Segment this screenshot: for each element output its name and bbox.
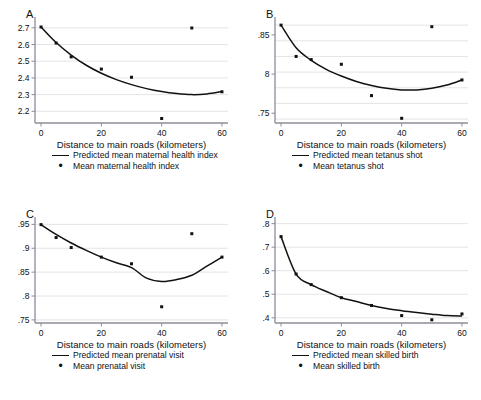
svg-text:.5: .5 [262,289,269,299]
dot-swatch-icon: • [52,362,69,371]
line-swatch-icon [52,155,69,156]
chart-panel-c: C .75.8.85.9.950204060Distance to main r… [0,200,240,400]
svg-text:.8: .8 [262,219,269,229]
legend-label-points-a: Mean maternal health index [73,161,179,171]
svg-text:2.7: 2.7 [18,23,30,33]
svg-text:.95: .95 [18,219,30,229]
legend-item-fit-b: Predicted mean tetanus shot [240,150,480,160]
dot-swatch-icon: • [292,362,309,371]
svg-text:60: 60 [217,128,227,138]
svg-text:40: 40 [157,328,167,338]
svg-text:.75: .75 [258,108,270,118]
svg-text:.7: .7 [262,242,269,252]
svg-text:.85: .85 [18,267,30,277]
legend-label-points-c: Mean prenatal visit [73,361,145,371]
svg-text:.4: .4 [262,313,269,323]
svg-text:0: 0 [279,128,284,138]
legend-label-fit-b: Predicted mean tetanus shot [313,150,422,160]
chart-panel-a: A 2.22.32.42.52.62.70204060Distance to m… [0,0,240,200]
legend-c: Predicted mean prenatal visit • Mean pre… [0,350,240,372]
svg-text:60: 60 [457,328,467,338]
legend-d: Predicted mean skilled birth • Mean skil… [240,350,480,372]
svg-text:0: 0 [39,328,44,338]
svg-text:20: 20 [337,128,347,138]
legend-label-fit-a: Predicted mean maternal health index [73,150,218,160]
legend-item-fit-a: Predicted mean maternal health index [0,150,240,160]
legend-label-fit-c: Predicted mean prenatal visit [73,350,184,360]
chart-panel-d: D .4.5.6.7.80204060Distance to main road… [240,200,480,400]
line-swatch-icon [292,355,309,356]
legend-label-fit-d: Predicted mean skilled birth [313,350,419,360]
svg-text:20: 20 [97,128,107,138]
svg-text:.85: .85 [258,30,270,40]
legend-label-points-d: Mean skilled birth [313,361,380,371]
svg-text:0: 0 [39,128,44,138]
svg-text:40: 40 [397,128,407,138]
svg-text:40: 40 [397,328,407,338]
svg-text:20: 20 [97,328,107,338]
legend-item-fit-d: Predicted mean skilled birth [240,350,480,360]
svg-text:.8: .8 [22,291,29,301]
svg-text:.75: .75 [18,315,30,325]
line-swatch-icon [52,355,69,356]
legend-b: Predicted mean tetanus shot • Mean tetan… [240,150,480,172]
svg-text:Distance to main roads (kilome: Distance to main roads (kilometers) [297,339,446,350]
svg-text:2.5: 2.5 [18,56,30,66]
svg-text:2.2: 2.2 [18,106,30,116]
svg-text:.9: .9 [22,243,29,253]
line-swatch-icon [292,155,309,156]
legend-item-points-c: • Mean prenatal visit [0,361,240,371]
legend-a: Predicted mean maternal health index • M… [0,150,240,172]
svg-text:.6: .6 [262,266,269,276]
legend-item-fit-c: Predicted mean prenatal visit [0,350,240,360]
svg-text:2.6: 2.6 [18,40,30,50]
dot-swatch-icon: • [292,162,309,171]
svg-text:60: 60 [457,128,467,138]
legend-item-points-b: • Mean tetanus shot [240,161,480,171]
legend-label-points-b: Mean tetanus shot [313,161,384,171]
svg-text:Distance to main roads (kilome: Distance to main roads (kilometers) [297,139,446,150]
svg-text:60: 60 [217,328,227,338]
svg-text:Distance to main roads (kilome: Distance to main roads (kilometers) [57,139,206,150]
legend-item-points-d: • Mean skilled birth [240,361,480,371]
svg-text:0: 0 [279,328,284,338]
dot-swatch-icon: • [52,162,69,171]
svg-text:2.3: 2.3 [18,90,30,100]
svg-text:20: 20 [337,328,347,338]
svg-text:2.4: 2.4 [18,73,30,83]
chart-panel-b: B .758.850204060Distance to main roads (… [240,0,480,200]
legend-item-points-a: • Mean maternal health index [0,161,240,171]
svg-text:8: 8 [265,69,270,79]
svg-text:40: 40 [157,128,167,138]
figure-panel-grid: A 2.22.32.42.52.62.70204060Distance to m… [0,0,481,400]
svg-text:Distance to main roads (kilome: Distance to main roads (kilometers) [57,339,206,350]
